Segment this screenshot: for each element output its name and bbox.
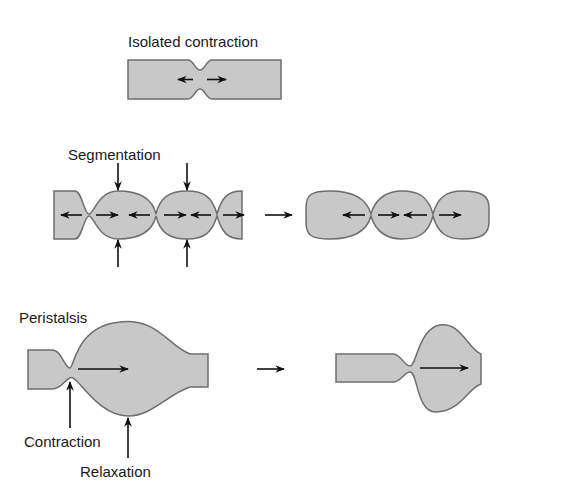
peristalsis-title: Peristalsis bbox=[19, 310, 87, 325]
segmentation-panel-before bbox=[54, 163, 244, 267]
isolated-tube bbox=[128, 60, 281, 99]
segmentation-title: Segmentation bbox=[68, 147, 161, 162]
segmentation-panel-after bbox=[306, 191, 489, 239]
gut-motility-diagram bbox=[0, 0, 571, 498]
isolated-contraction-title: Isolated contraction bbox=[128, 34, 258, 49]
contraction-annotation: Contraction bbox=[24, 434, 101, 449]
peristalsis-panel-after bbox=[336, 325, 481, 412]
isolated-contraction-panel bbox=[128, 60, 281, 99]
relaxation-annotation: Relaxation bbox=[80, 464, 151, 479]
